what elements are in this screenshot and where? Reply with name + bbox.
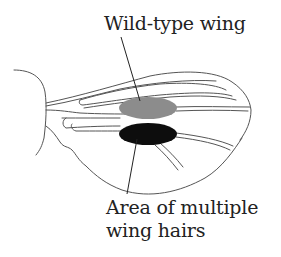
- leader-line-multiple-hairs: [127, 139, 137, 194]
- vein-l3: [46, 110, 130, 114]
- multiple-hairs-spot: [119, 123, 177, 145]
- multiple-hairs-label-line1: Area of multiple: [106, 196, 258, 219]
- wing-diagram: Wild-type wing Area of multiple wing hai…: [0, 0, 281, 257]
- multiple-hairs-label-line2: wing hairs: [106, 219, 258, 242]
- vein-l5: [160, 143, 183, 167]
- leader-line-wild-type: [121, 37, 140, 101]
- wild-type-label: Wild-type wing: [104, 12, 246, 34]
- body-outline: [14, 70, 46, 155]
- multiple-hairs-label: Area of multiple wing hairs: [106, 196, 258, 242]
- wild-type-spot: [119, 97, 177, 119]
